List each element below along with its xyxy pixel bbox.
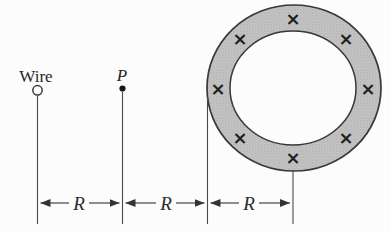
point-p-dot-icon bbox=[119, 85, 125, 91]
point-p-label: P bbox=[116, 66, 127, 85]
shaded-ring: × × × × × × × × bbox=[207, 5, 381, 171]
field-into-page-icon: × bbox=[285, 8, 300, 29]
wire-label: Wire bbox=[19, 67, 52, 86]
wire-point-ring-diagram: × × × × × × × × Wire P bbox=[0, 0, 391, 232]
ring-inner-edge bbox=[230, 31, 356, 145]
field-into-page-icon: × bbox=[232, 28, 247, 49]
field-into-page-icon: × bbox=[232, 127, 247, 148]
field-into-page-icon: × bbox=[338, 127, 353, 148]
field-into-page-icon: × bbox=[360, 78, 375, 99]
wire-cross-section-icon bbox=[33, 86, 42, 95]
field-into-page-icon: × bbox=[338, 28, 353, 49]
field-into-page-icon: × bbox=[285, 147, 300, 168]
field-into-page-icon: × bbox=[210, 78, 225, 99]
physics-figure: × × × × × × × × Wire P bbox=[0, 0, 391, 232]
dimension-label-r1: R bbox=[72, 193, 85, 214]
dimension-label-r2: R bbox=[159, 193, 172, 214]
dimension-label-r3: R bbox=[242, 193, 255, 214]
